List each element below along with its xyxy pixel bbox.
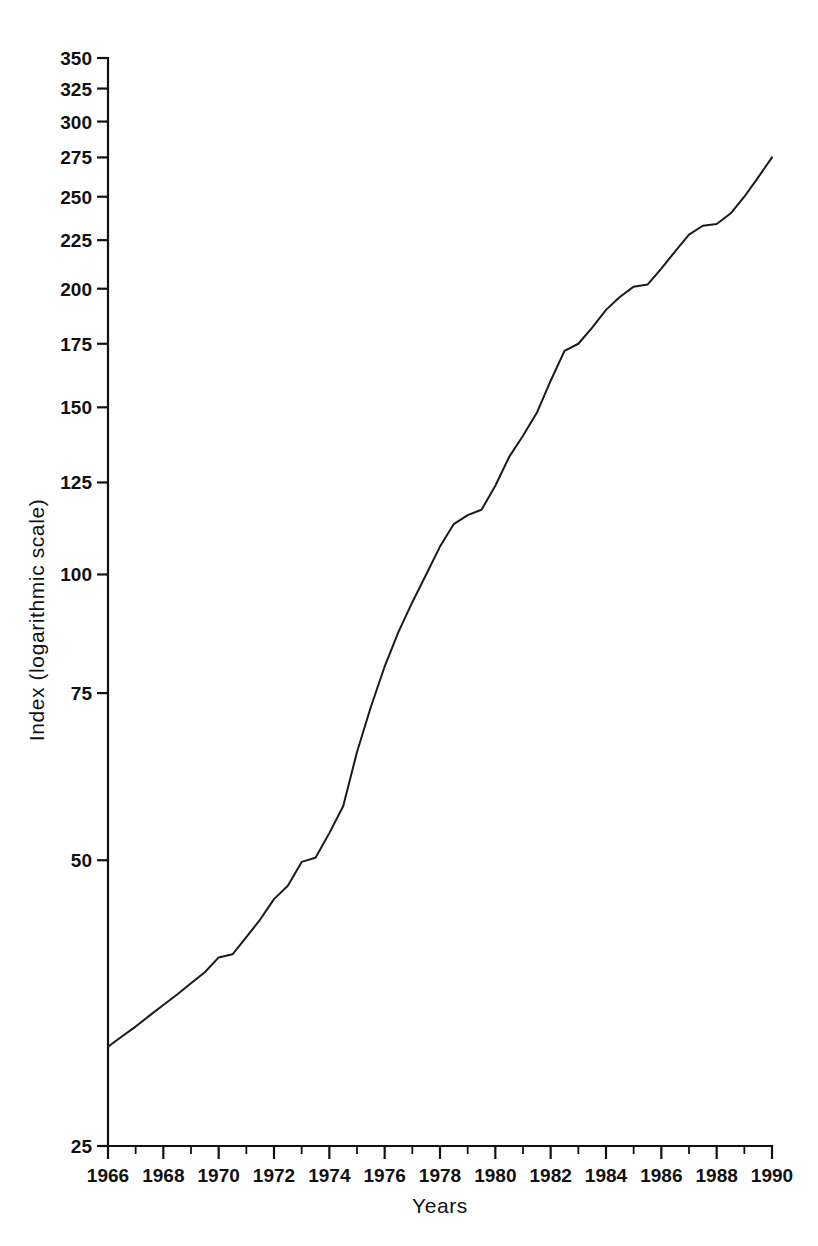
x-tick-label: 1966 — [87, 1165, 129, 1186]
x-axis-title: Years — [412, 1194, 468, 1217]
y-tick-label: 350 — [60, 48, 92, 69]
line-chart: 255075100125150175200225250275300325350 … — [0, 0, 818, 1246]
y-tick-label: 250 — [60, 187, 92, 208]
x-axis-tick-labels: 1966196819701972197419761978198019821984… — [87, 1165, 793, 1186]
y-tick-label: 150 — [60, 397, 92, 418]
y-tick-label: 175 — [60, 334, 92, 355]
y-tick-label: 75 — [71, 683, 93, 704]
x-tick-label: 1974 — [308, 1165, 351, 1186]
x-tick-label: 1986 — [640, 1165, 682, 1186]
y-axis-title: Index (logarithmic scale) — [25, 499, 48, 742]
x-tick-label: 1990 — [751, 1165, 793, 1186]
x-axis-ticks — [108, 1146, 772, 1159]
y-tick-label: 25 — [71, 1136, 93, 1157]
x-tick-label: 1976 — [364, 1165, 406, 1186]
x-tick-label: 1978 — [419, 1165, 461, 1186]
y-axis-tick-labels: 255075100125150175200225250275300325350 — [60, 48, 92, 1157]
chart-figure: 255075100125150175200225250275300325350 … — [0, 0, 818, 1246]
y-tick-label: 100 — [60, 564, 92, 585]
x-tick-label: 1988 — [696, 1165, 738, 1186]
y-tick-label: 325 — [60, 79, 92, 100]
y-tick-label: 300 — [60, 112, 92, 133]
x-tick-label: 1972 — [253, 1165, 295, 1186]
x-tick-label: 1980 — [474, 1165, 516, 1186]
y-tick-label: 275 — [60, 147, 92, 168]
y-tick-label: 50 — [71, 850, 92, 871]
y-tick-label: 200 — [60, 279, 92, 300]
y-tick-label: 225 — [60, 230, 92, 251]
series-line-index — [108, 157, 772, 1046]
data-series-group — [108, 157, 772, 1046]
x-tick-label: 1970 — [198, 1165, 240, 1186]
x-tick-label: 1984 — [585, 1165, 628, 1186]
y-tick-label: 125 — [60, 472, 92, 493]
x-tick-label: 1982 — [530, 1165, 572, 1186]
y-axis-ticks — [97, 58, 108, 1146]
x-tick-label: 1968 — [142, 1165, 184, 1186]
